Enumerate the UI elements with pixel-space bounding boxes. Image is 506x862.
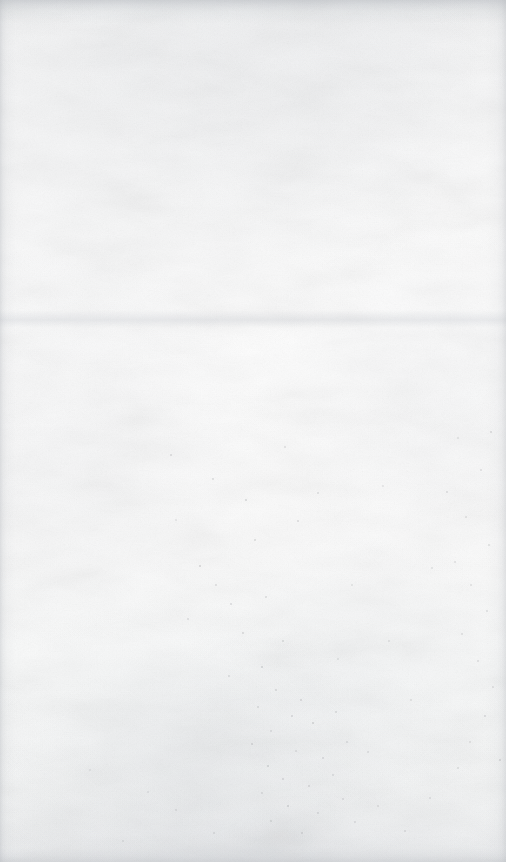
dust-speck — [499, 759, 501, 761]
dust-speck — [147, 791, 149, 793]
dust-speck — [228, 675, 230, 677]
page-edge-shadows — [0, 0, 506, 862]
dust-speck — [351, 584, 353, 586]
dust-speck — [388, 640, 390, 642]
dust-speck — [317, 812, 319, 814]
dust-speck — [275, 689, 277, 691]
dust-speck — [257, 706, 259, 708]
dust-speck — [295, 750, 297, 752]
dust-speck — [446, 491, 448, 493]
dust-speck — [291, 715, 293, 717]
dust-speck — [429, 797, 431, 799]
dust-speck-layer — [0, 0, 506, 862]
dust-speck — [261, 792, 263, 794]
dust-speck — [265, 596, 267, 598]
paper-blotch-overlay — [0, 0, 506, 862]
dust-speck — [470, 584, 472, 586]
paper-base-tone — [0, 0, 506, 862]
dust-speck — [454, 561, 456, 563]
paper-grain-texture — [0, 0, 506, 862]
dust-speck — [465, 516, 467, 518]
dust-speck — [480, 469, 482, 471]
dust-speck — [488, 544, 490, 546]
dust-speck — [457, 437, 459, 439]
dust-speck — [199, 565, 201, 567]
dust-speck — [284, 446, 286, 448]
dust-speck — [175, 519, 177, 521]
dust-speck — [308, 785, 310, 787]
dust-speck — [367, 751, 369, 753]
dust-speck — [477, 660, 479, 662]
dust-speck — [213, 832, 215, 834]
paper-crease — [0, 310, 506, 328]
dust-speck — [212, 478, 214, 480]
dust-speck — [469, 741, 471, 743]
dust-speck — [461, 633, 463, 635]
dust-speck — [377, 805, 379, 807]
dust-speck — [170, 454, 172, 456]
dust-speck — [342, 798, 344, 800]
dust-speck — [270, 730, 272, 732]
dust-speck — [270, 820, 272, 822]
dust-speck — [382, 485, 384, 487]
dust-speck — [346, 741, 348, 743]
dust-speck — [322, 757, 324, 759]
page-vignette — [0, 0, 506, 862]
dust-speck — [317, 492, 319, 494]
dust-speck — [337, 658, 339, 660]
dust-speck — [410, 699, 412, 701]
dust-speck — [187, 618, 189, 620]
dust-speck — [431, 567, 433, 569]
dust-speck — [282, 778, 284, 780]
dust-speck — [287, 805, 289, 807]
dust-speck — [486, 610, 488, 612]
scanned-page — [0, 0, 506, 862]
dust-speck — [312, 722, 314, 724]
dust-speck — [492, 686, 494, 688]
dust-speck — [282, 640, 284, 642]
dust-speck — [254, 539, 256, 541]
dust-speck — [122, 840, 124, 842]
dust-speck — [175, 809, 177, 811]
dust-speck — [267, 765, 269, 767]
dust-speck — [297, 520, 299, 522]
dust-speck — [457, 767, 459, 769]
dust-speck — [490, 431, 492, 433]
dust-speck — [354, 821, 356, 823]
dust-speck — [251, 743, 253, 745]
dust-speck — [261, 666, 263, 668]
dust-speck — [301, 832, 303, 834]
dust-speck — [404, 830, 406, 832]
dust-speck — [335, 711, 337, 713]
dust-speck — [332, 774, 334, 776]
paper-fibre-texture — [0, 0, 506, 862]
dust-speck — [89, 769, 90, 770]
dust-speck — [242, 632, 244, 634]
dust-speck — [484, 715, 486, 717]
dust-speck — [300, 699, 302, 701]
dust-speck — [215, 584, 217, 586]
dust-speck — [230, 603, 232, 605]
dust-speck — [245, 499, 247, 501]
